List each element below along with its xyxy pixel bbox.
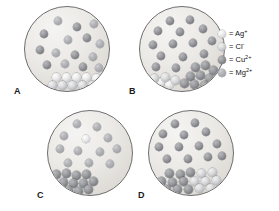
precipitate-ion-cl	[88, 81, 97, 90]
ion-mg	[61, 60, 69, 68]
ion-cu	[208, 37, 216, 45]
legend-symbol-ag: Ag	[235, 29, 244, 38]
ion-mg	[96, 40, 104, 48]
legend: = Ag+= Cl-= Cu2+= Mg2+	[218, 27, 278, 79]
ion-cu	[199, 25, 207, 33]
precipitate-ion-cu	[157, 177, 166, 186]
precipitate-ion-cu	[186, 168, 195, 177]
ion-mg	[89, 53, 97, 61]
ion-cu	[163, 155, 171, 163]
legend-swatch-ag-icon	[218, 30, 226, 38]
legend-label-ag: = Ag+	[229, 30, 247, 38]
ion-cu	[191, 119, 199, 127]
legend-label-cl: = Cl-	[229, 43, 244, 51]
precipitate-ion-cu	[190, 80, 199, 89]
ion-cu	[189, 39, 197, 47]
ion-cu	[179, 53, 187, 61]
ion-mg	[104, 134, 112, 142]
precipitate-ion-cl	[150, 74, 159, 83]
legend-charge-ag: +	[244, 27, 247, 33]
ion-mg	[60, 132, 68, 140]
precipitate-ion-cu	[184, 185, 193, 194]
ion-cu	[157, 52, 165, 60]
ion-cu	[175, 143, 183, 151]
precipitate-ion-cl	[48, 81, 57, 90]
precipitate-ion-cu	[201, 61, 210, 70]
precipitate-ion-cu	[200, 81, 209, 90]
legend-symbol-cl: Cl	[235, 42, 242, 51]
precipitate-ion-cl	[212, 176, 221, 185]
ion-cu	[186, 16, 194, 24]
ion-mg	[64, 159, 72, 167]
precipitate-ion-cu	[180, 79, 189, 88]
ion-cu	[184, 155, 192, 163]
precipitate-ion-cu	[196, 71, 205, 80]
beaker-a	[24, 6, 110, 92]
ion-mg	[106, 160, 114, 168]
legend-charge-cl: -	[243, 40, 245, 46]
precipitate-ion-cl	[97, 80, 106, 89]
ion-mg	[56, 145, 64, 153]
ion-mg	[96, 148, 104, 156]
ion-cu	[155, 143, 163, 151]
ion-cu	[149, 41, 157, 49]
ion-cu	[213, 140, 221, 148]
legend-swatch-cl-icon	[218, 43, 226, 51]
precipitate-ion-cu	[179, 177, 188, 186]
panel-letter-d: D	[138, 190, 145, 200]
panel-letter-c: C	[37, 190, 44, 200]
legend-equals-cu: =	[229, 55, 233, 64]
legend-charge-mg: 2+	[246, 66, 252, 72]
precipitate-ion-cu	[54, 186, 63, 195]
legend-swatch-mg-icon	[218, 69, 226, 77]
ion-cu	[71, 51, 79, 59]
ion-cu	[154, 27, 162, 35]
ion-cu	[176, 28, 184, 36]
legend-row-cu: = Cu2+	[218, 53, 278, 66]
panel-letter-a: A	[14, 86, 21, 96]
legend-equals-mg: =	[229, 68, 233, 77]
precipitate-ion-cu	[84, 185, 93, 194]
beaker-d	[148, 110, 234, 196]
ion-cu	[195, 142, 203, 150]
legend-equals-ag: =	[229, 29, 233, 38]
precipitate-ion-cl	[161, 73, 170, 82]
panel-letter-b: B	[129, 86, 136, 96]
precipitate-ion-cu	[162, 185, 171, 194]
ion-cu	[152, 63, 160, 71]
ion-mg	[73, 120, 81, 128]
ion-cu	[40, 30, 48, 38]
beaker-b	[139, 6, 225, 92]
beaker-a-contents	[25, 7, 109, 91]
ion-cu	[83, 34, 91, 42]
ion-cu	[171, 120, 179, 128]
ion-cu	[159, 130, 167, 138]
ion-cu	[43, 61, 51, 69]
precipitate-ion-cu	[74, 187, 83, 196]
ion-mg	[54, 17, 62, 25]
ion-cu	[202, 128, 210, 136]
ion-cu	[200, 50, 208, 58]
precipitate-ion-cu	[49, 178, 58, 187]
precipitate-ion-cl	[171, 76, 180, 85]
ion-cu	[36, 46, 44, 54]
ion-mg	[90, 20, 98, 28]
beaker-b-contents	[140, 7, 224, 91]
ion-mg	[113, 145, 121, 153]
precipitate-ion-cl	[206, 184, 215, 193]
legend-row-ag: = Ag+	[218, 27, 278, 40]
precipitate-ion-cl	[58, 81, 67, 90]
ion-cu	[218, 152, 226, 160]
ion-mg	[93, 123, 101, 131]
precipitate-ion-cu	[59, 178, 68, 187]
legend-symbol-cu: Cu	[235, 55, 245, 64]
precipitate-ion-cu	[165, 169, 174, 178]
ion-mg	[85, 159, 93, 167]
ion-cu	[172, 64, 180, 72]
precipitate-ion-cu	[62, 169, 71, 178]
precipitate-ion-cu	[82, 170, 91, 179]
precipitate-ion-cu	[89, 177, 98, 186]
ion-cu	[166, 17, 174, 25]
legend-symbol-mg: Mg	[235, 68, 245, 77]
precipitate-ion-cu	[64, 186, 73, 195]
